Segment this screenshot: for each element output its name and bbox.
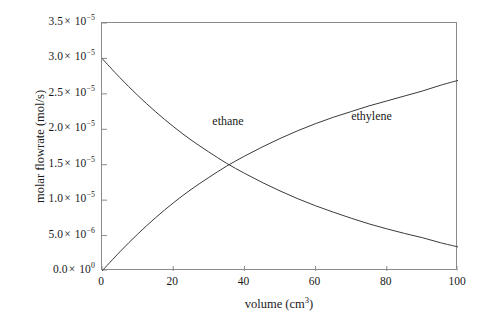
- multiplication-sign: ×: [63, 50, 72, 62]
- multiplication-sign: ×: [63, 157, 72, 169]
- tick-base: 10: [76, 263, 91, 275]
- tick-mantissa: 3.0: [49, 50, 64, 62]
- tick-mantissa: 2.0: [49, 121, 64, 133]
- tick-mantissa: 3.5: [49, 15, 64, 27]
- y-axis-tick-label: 3.0× 10−5: [49, 51, 95, 63]
- multiplication-sign: ×: [68, 263, 77, 275]
- y-axis-tick-label: 3.5× 10−5: [49, 16, 95, 28]
- y-axis-tick-label: 2.5× 10−5: [49, 87, 95, 99]
- y-axis-tick-label: 2.0× 10−5: [49, 122, 95, 134]
- y-axis-tick-label: 0.0× 100: [53, 264, 95, 276]
- multiplication-sign: ×: [63, 192, 72, 204]
- chart-figure: 3.5× 10−53.0× 10−52.5× 10−52.0× 10−51.5×…: [0, 0, 491, 325]
- annotation-ethylene: ethylene: [351, 109, 392, 124]
- tick-mantissa: 1.0: [49, 192, 64, 204]
- tick-mantissa: 0.0: [53, 263, 68, 275]
- tick-base: 10: [72, 50, 87, 62]
- tick-base: 10: [72, 157, 87, 169]
- x-axis-title-close: ): [309, 297, 313, 311]
- tick-mantissa: 2.5: [49, 86, 64, 98]
- y-axis-tick-labels: 3.5× 10−53.0× 10−52.5× 10−52.0× 10−51.5×…: [0, 0, 95, 325]
- x-axis-tick-label: 80: [380, 275, 392, 287]
- tick-base: 10: [72, 228, 87, 240]
- tick-base: 10: [72, 15, 87, 27]
- plot-area: ethane ethylene: [101, 22, 457, 270]
- x-axis-title-text: volume (cm: [245, 297, 305, 311]
- tick-base: 10: [72, 121, 87, 133]
- multiplication-sign: ×: [63, 15, 72, 27]
- series-line-ethylene: [102, 80, 458, 271]
- y-axis-tick-label: 1.5× 10−5: [49, 158, 95, 170]
- series-line-ethane: [102, 58, 458, 246]
- x-axis-tick-label: 20: [166, 275, 178, 287]
- x-axis-tick-label: 100: [448, 275, 465, 287]
- tick-base: 10: [72, 192, 87, 204]
- tick-mantissa: 1.5: [49, 157, 64, 169]
- tick-exponent: −6: [86, 226, 95, 235]
- tick-exponent: −5: [86, 49, 95, 58]
- tick-exponent: −5: [86, 155, 95, 164]
- tick-base: 10: [72, 86, 87, 98]
- x-axis-title: volume (cm3): [101, 297, 457, 312]
- y-axis-tick-label: 1.0× 10−5: [49, 193, 95, 205]
- tick-exponent: −5: [86, 84, 95, 93]
- tick-exponent: −5: [86, 119, 95, 128]
- tick-exponent: −5: [86, 190, 95, 199]
- tick-exponent: −5: [86, 13, 95, 22]
- y-axis-tick-label: 5.0× 10−6: [49, 229, 95, 241]
- multiplication-sign: ×: [63, 228, 72, 240]
- x-axis-tick-label: 40: [238, 275, 250, 287]
- tick-exponent: 0: [91, 261, 95, 270]
- y-axis-title: molar flowrate (mol/s): [33, 27, 48, 267]
- x-axis-tick-label: 0: [98, 275, 104, 287]
- tick-mantissa: 5.0: [49, 228, 64, 240]
- multiplication-sign: ×: [63, 86, 72, 98]
- multiplication-sign: ×: [63, 121, 72, 133]
- annotation-ethane: ethane: [212, 114, 243, 129]
- series-curves: [102, 23, 458, 271]
- x-axis-tick-label: 60: [309, 275, 321, 287]
